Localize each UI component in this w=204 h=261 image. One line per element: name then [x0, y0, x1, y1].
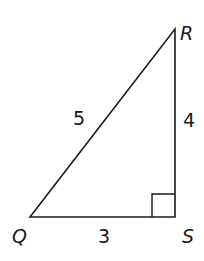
vertex-label-s: S — [182, 225, 194, 247]
right-angle-marker — [152, 194, 175, 217]
side-label-qr: 5 — [73, 107, 85, 129]
side-label-qs: 3 — [98, 225, 110, 247]
side-label-rs: 4 — [183, 109, 195, 131]
vertex-label-q: Q — [12, 225, 27, 247]
triangle-qrs — [30, 29, 175, 217]
vertex-label-r: R — [180, 22, 193, 44]
triangle-diagram: R Q S 5 4 3 — [0, 0, 204, 261]
